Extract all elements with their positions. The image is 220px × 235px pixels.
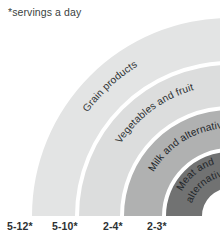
serving-label-grain-products: 5-12*	[7, 220, 33, 232]
rainbow-svg: Grain products Vegetables and fruit Milk…	[0, 0, 220, 235]
servings-footnote: *servings a day	[8, 6, 81, 18]
serving-label-vegetables-and-fruit: 5-10*	[52, 220, 78, 232]
food-guide-rainbow: Grain products Vegetables and fruit Milk…	[0, 0, 220, 235]
serving-label-milk-and-alternatives: 2-4*	[103, 220, 123, 232]
serving-label-meat-and-alternatives: 2-3*	[147, 220, 167, 232]
